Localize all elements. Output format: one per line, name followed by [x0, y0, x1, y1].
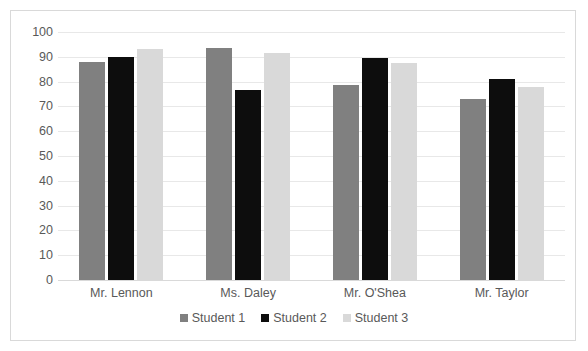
- y-tick-label: 30: [19, 199, 53, 213]
- legend-swatch-icon: [180, 314, 188, 322]
- y-tick-label: 60: [19, 124, 53, 138]
- bar[interactable]: [108, 57, 134, 280]
- legend-item[interactable]: Student 3: [343, 311, 409, 325]
- bar[interactable]: [79, 62, 105, 280]
- legend-label: Student 2: [273, 311, 327, 325]
- y-tick-label: 70: [19, 99, 53, 113]
- bar[interactable]: [235, 90, 261, 280]
- bar-group: [312, 32, 439, 280]
- legend-label: Student 1: [192, 311, 246, 325]
- bar[interactable]: [333, 85, 359, 280]
- chart-container: 1009080706050403020100 Mr. LennonMs. Dal…: [10, 10, 576, 341]
- legend-label: Student 3: [355, 311, 409, 325]
- x-axis: Mr. LennonMs. DaleyMr. O'SheaMr. Taylor: [58, 286, 565, 306]
- bar[interactable]: [206, 48, 232, 280]
- gridline-0: [58, 280, 565, 281]
- y-tick-label: 50: [19, 149, 53, 163]
- bar-group: [185, 32, 312, 280]
- y-tick-label: 90: [19, 50, 53, 64]
- y-tick-label: 10: [19, 248, 53, 262]
- bar[interactable]: [362, 58, 388, 280]
- legend-item[interactable]: Student 1: [180, 311, 246, 325]
- bar[interactable]: [391, 63, 417, 280]
- bar[interactable]: [489, 79, 515, 280]
- x-tick-label: Mr. O'Shea: [312, 286, 439, 300]
- x-tick-label: Mr. Taylor: [438, 286, 565, 300]
- legend-item[interactable]: Student 2: [261, 311, 327, 325]
- chart-legend: Student 1Student 2Student 3: [11, 311, 577, 325]
- bar-group: [58, 32, 185, 280]
- bar[interactable]: [264, 53, 290, 280]
- bar[interactable]: [137, 49, 163, 280]
- legend-swatch-icon: [261, 314, 269, 322]
- bar[interactable]: [460, 99, 486, 280]
- bar[interactable]: [518, 87, 544, 280]
- y-axis: 1009080706050403020100: [11, 32, 53, 280]
- x-tick-label: Mr. Lennon: [58, 286, 185, 300]
- y-tick-label: 0: [19, 273, 53, 287]
- y-tick-label: 100: [19, 25, 53, 39]
- bars-layer: [58, 32, 565, 280]
- x-tick-label: Ms. Daley: [185, 286, 312, 300]
- y-tick-label: 40: [19, 174, 53, 188]
- legend-swatch-icon: [343, 314, 351, 322]
- y-tick-label: 80: [19, 75, 53, 89]
- y-tick-label: 20: [19, 223, 53, 237]
- bar-group: [438, 32, 565, 280]
